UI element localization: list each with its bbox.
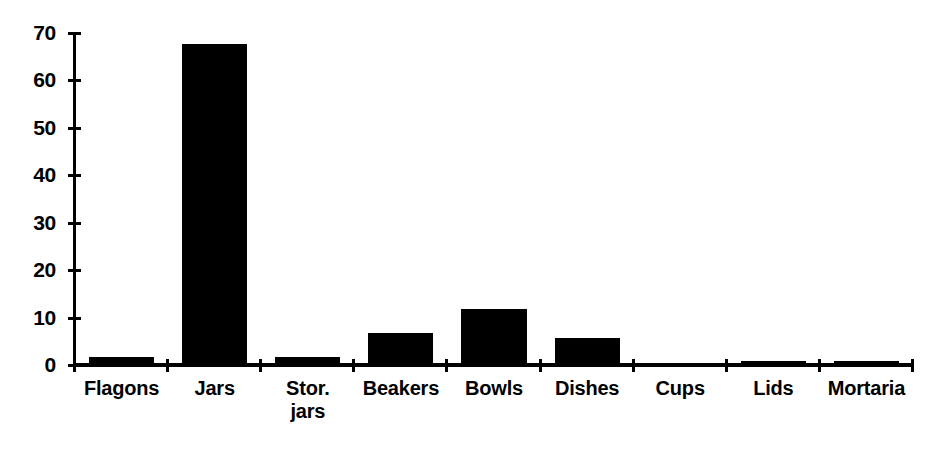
- bar-mortaria: [834, 361, 899, 366]
- category-label-line1: Beakers: [363, 377, 439, 399]
- y-axis-tick-label: 70: [4, 22, 56, 43]
- x-axis-category-label: Cups: [634, 377, 727, 400]
- x-axis-category-label: Lids: [727, 377, 820, 400]
- category-label-line2: jars: [261, 400, 354, 423]
- bar-dishes: [555, 338, 620, 366]
- category-label-line1: Stor.: [286, 377, 329, 399]
- x-axis-category-label: Jars: [168, 377, 261, 400]
- bar-jars: [182, 44, 247, 367]
- category-label-line1: Mortaria: [828, 377, 905, 399]
- bar-chart: 706050403020100 FlagonsJarsStor.jarsBeak…: [0, 0, 937, 454]
- y-axis-tick-label: 0: [4, 354, 56, 375]
- y-axis-tick-label: 10: [4, 307, 56, 328]
- y-axis-tick-label: 50: [4, 117, 56, 138]
- y-axis-tick-label: 20: [4, 259, 56, 280]
- category-label-line1: Bowls: [465, 377, 523, 399]
- bar-bowls: [461, 309, 526, 366]
- bar-cups: [648, 364, 713, 366]
- category-label-line1: Lids: [753, 377, 793, 399]
- x-axis-category-label: Stor.jars: [261, 377, 354, 422]
- x-axis-category-label: Beakers: [354, 377, 447, 400]
- x-axis-category-label: Mortaria: [820, 377, 913, 400]
- bar-beakers: [368, 333, 433, 366]
- bar-flagons: [89, 357, 154, 366]
- category-label-line1: Cups: [656, 377, 705, 399]
- x-axis-category-label: Flagons: [75, 377, 168, 400]
- bar-lids: [741, 361, 806, 366]
- y-axis-tick-label: 60: [4, 69, 56, 90]
- category-label-line1: Dishes: [555, 377, 619, 399]
- x-axis-category-label: Dishes: [541, 377, 634, 400]
- y-axis-tick-label: 40: [4, 164, 56, 185]
- category-label-line1: Jars: [194, 377, 234, 399]
- plot-area: [75, 33, 913, 366]
- y-axis-tick-label: 30: [4, 212, 56, 233]
- bar-stor-: [275, 357, 340, 366]
- x-axis-category-label: Bowls: [447, 377, 540, 400]
- category-label-line1: Flagons: [84, 377, 159, 399]
